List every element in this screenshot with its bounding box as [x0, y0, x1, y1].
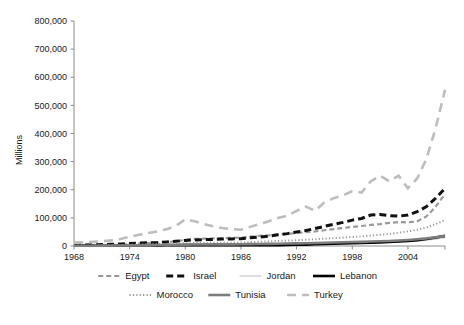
y-axis-title-label: Millions	[14, 135, 24, 166]
x-tick-label: 1974	[120, 252, 140, 262]
line-chart: Millions 800,000700,000600,000500,000400…	[0, 0, 464, 325]
chart-container: Millions 800,000700,000600,000500,000400…	[0, 0, 464, 325]
legend-label-jordan: Jordan	[267, 270, 296, 281]
x-tick-label: 1980	[175, 252, 195, 262]
y-tick-label: 0	[62, 241, 67, 251]
series-lines	[74, 90, 445, 246]
x-tick-label: 2004	[398, 252, 418, 262]
y-tick-label: 800,000	[34, 16, 67, 26]
legend-label-lebanon: Lebanon	[340, 270, 377, 281]
y-tick-label: 500,000	[34, 101, 67, 111]
y-tick-label: 400,000	[34, 129, 67, 139]
y-tick-label: 700,000	[34, 44, 67, 54]
series-line-egypt	[74, 194, 445, 245]
x-tick-label: 1968	[64, 252, 84, 262]
legend-label-turkey: Turkey	[314, 289, 343, 300]
y-tick-label: 600,000	[34, 72, 67, 82]
y-axis-tick-labels: 800,000700,000600,000500,000400,000300,0…	[34, 16, 67, 251]
y-tick-label: 100,000	[34, 213, 67, 223]
chart-legend: EgyptIsraelJordanLebanonMoroccoTunisiaTu…	[98, 270, 377, 300]
x-axis-tick-labels: 1968197419801986199219982004	[64, 252, 418, 262]
x-tick-label: 1998	[342, 252, 362, 262]
series-line-turkey	[74, 90, 445, 243]
legend-label-morocco: Morocco	[157, 289, 193, 300]
y-axis-title: Millions	[14, 135, 24, 166]
axis-lines	[71, 21, 446, 250]
y-tick-label: 200,000	[34, 185, 67, 195]
series-line-tunisia	[74, 236, 445, 246]
y-tick-label: 300,000	[34, 157, 67, 167]
legend-label-tunisia: Tunisia	[235, 289, 266, 300]
legend-label-israel: Israel	[193, 270, 216, 281]
legend-label-egypt: Egypt	[125, 270, 150, 281]
x-tick-label: 1992	[287, 252, 307, 262]
x-tick-label: 1986	[231, 252, 251, 262]
